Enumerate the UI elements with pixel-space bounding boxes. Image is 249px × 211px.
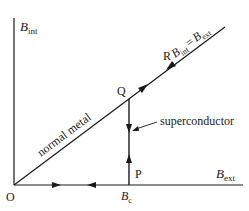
- arrow-up-vertical-icon: [126, 154, 132, 163]
- leader-arrow-icon: [132, 126, 139, 131]
- normal-metal-label: normal metal: [34, 110, 94, 160]
- arrow-down-vertical-icon: [126, 124, 132, 133]
- point-q-label: Q: [117, 84, 126, 98]
- superconductor-diagram: Bint Bext O Bc P Q R superconductor norm…: [0, 0, 249, 211]
- superconductor-leader: [136, 122, 157, 129]
- superconductor-label: superconductor: [160, 114, 234, 128]
- x-axis-label: Bext: [216, 166, 235, 183]
- bc-label: Bc: [121, 189, 132, 205]
- origin-label: O: [6, 190, 15, 204]
- y-axis-label: Bint: [20, 19, 38, 36]
- equation-label: Bint=Bext: [168, 23, 213, 62]
- arrow-left-axis-icon: [87, 182, 96, 188]
- normal-metal-line: [14, 27, 225, 185]
- arrow-right-axis-icon: [52, 182, 61, 188]
- point-p-label: P: [135, 167, 142, 181]
